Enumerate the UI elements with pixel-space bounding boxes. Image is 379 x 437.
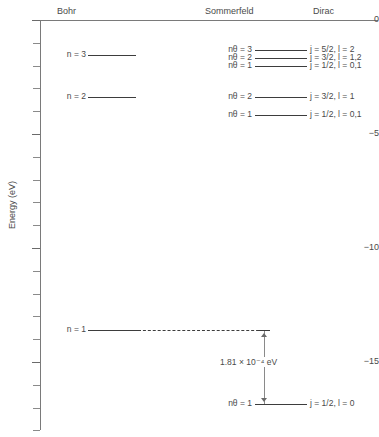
sommerfeld-level-label-n1-ground: nθ = 1 xyxy=(212,399,252,408)
sommerfeld-level-line-n1-mid xyxy=(255,115,307,116)
y-minor-tick xyxy=(33,66,40,67)
y-axis-line xyxy=(40,20,41,430)
bohr-level-line-n3 xyxy=(88,55,136,56)
dirac-level-label-j12-l01-mid: j = 1/2, l = 0,1 xyxy=(310,110,362,119)
y-minor-tick xyxy=(33,271,40,272)
y-minor-tick xyxy=(33,225,40,226)
splitting-arrow-head-down xyxy=(261,398,267,402)
bohr-to-dirac-connector xyxy=(138,330,264,331)
bohr-level-label-n1: n = 1 xyxy=(50,325,86,334)
sommerfeld-level-line-n1-upper xyxy=(255,66,307,67)
y-minor-tick xyxy=(33,294,40,295)
y-minor-tick xyxy=(33,180,40,181)
y-axis-title: Energy (eV) xyxy=(7,175,17,235)
energy-level-diagram: Energy (eV) 0 −5 −10 −15 Bohr Sommerfeld… xyxy=(0,0,379,437)
y-tick-label-minus5: −5 xyxy=(347,129,379,138)
sommerfeld-level-label-n1-upper: nθ = 1 xyxy=(212,61,252,70)
bohr-level-line-n2 xyxy=(88,97,136,98)
dirac-level-label-j12-l01-upper: j = 1/2, l = 0,1 xyxy=(310,61,362,70)
column-header-dirac: Dirac xyxy=(313,6,334,16)
y-tick-label-minus10: −10 xyxy=(347,243,379,252)
y-tick-minus15 xyxy=(32,362,40,363)
y-tick-label-minus15: −15 xyxy=(347,357,379,366)
y-minor-tick xyxy=(33,385,40,386)
dirac-level-label-j32-l1: j = 3/2, l = 1 xyxy=(310,92,354,101)
column-header-bohr: Bohr xyxy=(57,6,76,16)
y-tick-label-0: 0 xyxy=(347,15,379,24)
splitting-value-label: 1.81 × 10⁻⁴ eV xyxy=(218,357,279,367)
column-header-sommerfeld: Sommerfeld xyxy=(205,6,254,16)
splitting-arrow-line xyxy=(264,331,265,404)
y-tick-minus10 xyxy=(32,248,40,249)
y-minor-tick xyxy=(33,157,40,158)
y-minor-tick xyxy=(33,202,40,203)
y-minor-tick xyxy=(33,339,40,340)
y-tick-minus5 xyxy=(32,134,40,135)
zero-energy-baseline xyxy=(40,20,378,21)
bohr-level-label-n2: n = 2 xyxy=(50,92,86,101)
sommerfeld-level-label-n2-mid: nθ = 2 xyxy=(212,92,252,101)
bohr-level-line-n1 xyxy=(88,330,138,331)
splitting-arrow-head-up xyxy=(261,333,267,337)
y-tick-0 xyxy=(32,20,40,21)
sommerfeld-level-line-n2-mid xyxy=(255,97,307,98)
y-minor-tick xyxy=(33,430,40,431)
y-minor-tick xyxy=(33,111,40,112)
y-minor-tick xyxy=(33,316,40,317)
sommerfeld-level-line-n3 xyxy=(255,50,307,51)
y-minor-tick xyxy=(33,408,40,409)
dirac-level-label-j12-l0: j = 1/2, l = 0 xyxy=(310,399,354,408)
bohr-level-label-n3: n = 3 xyxy=(50,50,86,59)
sommerfeld-level-label-n1-mid: nθ = 1 xyxy=(212,110,252,119)
y-minor-tick xyxy=(33,88,40,89)
sommerfeld-level-line-n2-upper xyxy=(255,58,307,59)
splitting-bottom-cap xyxy=(259,404,270,405)
y-minor-tick xyxy=(33,43,40,44)
